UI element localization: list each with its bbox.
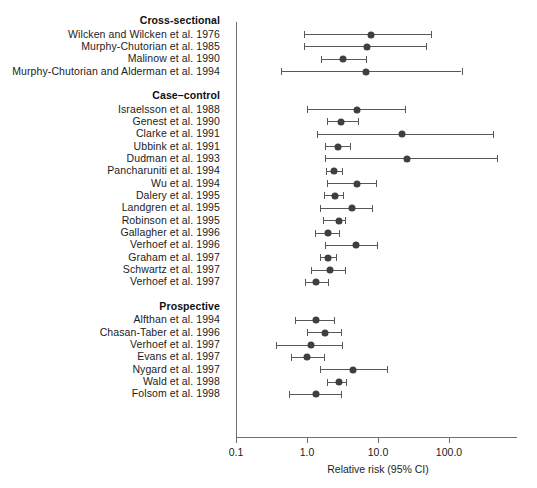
effect-estimate-point bbox=[332, 192, 339, 199]
study-label: Gallagher et al. 1996 bbox=[120, 227, 220, 238]
study-label: Dalery et al. 1995 bbox=[136, 190, 220, 201]
effect-estimate-point bbox=[399, 131, 406, 138]
effect-estimate-point bbox=[313, 279, 320, 286]
effect-estimate-point bbox=[322, 329, 329, 336]
ci-lower-cap bbox=[327, 180, 328, 187]
ci-lower-cap bbox=[281, 68, 282, 75]
ci-lower-cap bbox=[321, 56, 322, 63]
study-label: Evans et al. 1997 bbox=[137, 351, 220, 362]
study-label: Pancharuniti et al. 1994 bbox=[107, 165, 220, 176]
ci-upper-cap bbox=[366, 56, 367, 63]
ci-lower-cap bbox=[295, 317, 296, 324]
study-label: Wilcken and Wilcken et al. 1976 bbox=[68, 29, 220, 40]
study-label-column: Cross-sectionalWilcken and Wilcken et al… bbox=[0, 0, 228, 488]
ci-upper-cap bbox=[350, 143, 351, 150]
ci-upper-cap bbox=[376, 180, 377, 187]
study-label: Israelsson et al. 1988 bbox=[118, 104, 220, 115]
effect-estimate-point bbox=[334, 143, 341, 150]
x-tick-label: 10.0 bbox=[368, 446, 388, 458]
ci-upper-cap bbox=[346, 379, 347, 386]
x-tick-1.0 bbox=[307, 437, 308, 443]
effect-estimate-point bbox=[353, 180, 360, 187]
ci-lower-cap bbox=[325, 242, 326, 249]
effect-estimate-point bbox=[313, 317, 320, 324]
ci-upper-cap bbox=[462, 68, 463, 75]
study-label: Verhoef et al. 1997 bbox=[130, 276, 220, 287]
study-label: Graham et al. 1997 bbox=[128, 252, 220, 263]
study-label: Nygard et al. 1997 bbox=[132, 364, 220, 375]
effect-estimate-point bbox=[339, 56, 346, 63]
effect-estimate-point bbox=[325, 230, 332, 237]
confidence-interval-line bbox=[325, 158, 497, 159]
effect-estimate-point bbox=[304, 354, 311, 361]
study-label: Ubbink et al. 1991 bbox=[134, 141, 220, 152]
effect-estimate-point bbox=[348, 205, 355, 212]
ci-lower-cap bbox=[320, 366, 321, 373]
x-tick-label: 100.0 bbox=[436, 446, 462, 458]
ci-lower-cap bbox=[323, 217, 324, 224]
x-tick-100.0 bbox=[449, 437, 450, 443]
ci-upper-cap bbox=[343, 192, 344, 199]
ci-lower-cap bbox=[304, 43, 305, 50]
effect-estimate-point bbox=[363, 68, 370, 75]
ci-upper-cap bbox=[387, 366, 388, 373]
ci-upper-cap bbox=[497, 155, 498, 162]
ci-upper-cap bbox=[334, 317, 335, 324]
effect-estimate-point bbox=[353, 242, 360, 249]
effect-estimate-point bbox=[349, 366, 356, 373]
forest-plot: Cross-sectionalWilcken and Wilcken et al… bbox=[0, 0, 537, 488]
ci-lower-cap bbox=[327, 118, 328, 125]
effect-estimate-point bbox=[313, 391, 320, 398]
ci-upper-cap bbox=[341, 329, 342, 336]
study-label: Genest et al. 1990 bbox=[132, 116, 220, 127]
group-header-cross-sectional: Cross-sectional bbox=[140, 15, 220, 26]
study-label: Alfthan et al. 1994 bbox=[133, 314, 220, 325]
ci-lower-cap bbox=[307, 329, 308, 336]
ci-lower-cap bbox=[289, 391, 290, 398]
effect-estimate-point bbox=[364, 43, 371, 50]
ci-lower-cap bbox=[276, 342, 277, 349]
ci-upper-cap bbox=[431, 31, 432, 38]
effect-estimate-point bbox=[335, 217, 342, 224]
effect-estimate-point bbox=[353, 106, 360, 113]
ci-lower-cap bbox=[326, 168, 327, 175]
ci-upper-cap bbox=[372, 205, 373, 212]
ci-lower-cap bbox=[327, 379, 328, 386]
ci-lower-cap bbox=[304, 31, 305, 38]
ci-lower-cap bbox=[291, 354, 292, 361]
study-label: Wald et al. 1998 bbox=[143, 376, 220, 387]
x-axis-spine bbox=[236, 437, 517, 438]
ci-lower-cap bbox=[307, 106, 308, 113]
study-label: Landgren et al. 1995 bbox=[122, 202, 220, 213]
ci-upper-cap bbox=[339, 230, 340, 237]
x-tick-0.1 bbox=[236, 437, 237, 443]
x-tick-10.0 bbox=[378, 437, 379, 443]
confidence-interval-line bbox=[325, 245, 377, 246]
study-label: Verhoef et al. 1996 bbox=[130, 239, 220, 250]
ci-lower-cap bbox=[320, 205, 321, 212]
ci-upper-cap bbox=[345, 267, 346, 274]
study-label: Verhoef et al. 1997 bbox=[130, 339, 220, 350]
effect-estimate-point bbox=[337, 118, 344, 125]
ci-upper-cap bbox=[336, 254, 337, 261]
study-label: Murphy-Chutorian and Alderman et al. 199… bbox=[12, 66, 220, 77]
ci-upper-cap bbox=[328, 279, 329, 286]
x-axis-title: Relative risk (95% CI) bbox=[327, 463, 429, 475]
x-tick-label: 1.0 bbox=[300, 446, 315, 458]
effect-estimate-point bbox=[325, 254, 332, 261]
confidence-interval-line bbox=[320, 208, 372, 209]
study-label: Murphy-Chutorian et al. 1985 bbox=[81, 41, 220, 52]
x-tick-label: 0.1 bbox=[229, 446, 244, 458]
study-label: Robinson et al. 1995 bbox=[122, 215, 220, 226]
effect-estimate-point bbox=[330, 168, 337, 175]
effect-estimate-point bbox=[326, 267, 333, 274]
ci-upper-cap bbox=[342, 342, 343, 349]
effect-estimate-point bbox=[368, 31, 375, 38]
ci-lower-cap bbox=[311, 267, 312, 274]
ci-lower-cap bbox=[325, 143, 326, 150]
study-label: Malinow et al. 1990 bbox=[128, 53, 220, 64]
study-label: Wu et al. 1994 bbox=[151, 178, 220, 189]
ci-lower-cap bbox=[320, 254, 321, 261]
ci-lower-cap bbox=[317, 131, 318, 138]
ci-lower-cap bbox=[325, 155, 326, 162]
